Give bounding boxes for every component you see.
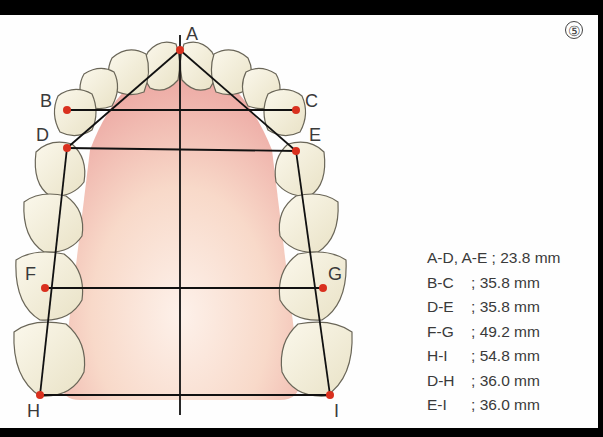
legend-key: H-I bbox=[427, 344, 471, 369]
point-B bbox=[63, 106, 71, 114]
legend-value: 35.8 mm bbox=[480, 295, 540, 320]
point-E bbox=[292, 147, 300, 155]
legend-key: D-H bbox=[427, 369, 471, 394]
legend-row: B-C; 35.8 mm bbox=[427, 271, 561, 296]
point-F bbox=[41, 284, 49, 292]
legend-sep: ; bbox=[471, 393, 480, 418]
label-I: I bbox=[334, 401, 339, 421]
dental-arch-diagram: A B C D E F G H I bbox=[0, 15, 420, 428]
label-F: F bbox=[25, 264, 36, 284]
legend-value: 36.0 mm bbox=[480, 393, 540, 418]
legend-key: F-G bbox=[427, 320, 471, 345]
legend-row: F-G; 49.2 mm bbox=[427, 320, 561, 345]
legend-row: H-I; 54.8 mm bbox=[427, 344, 561, 369]
legend-sep: ; bbox=[471, 369, 480, 394]
legend-value: 36.0 mm bbox=[480, 369, 540, 394]
legend-key: D-E bbox=[427, 295, 471, 320]
label-E: E bbox=[309, 125, 321, 145]
point-C bbox=[292, 106, 300, 114]
legend-value: 35.8 mm bbox=[480, 271, 540, 296]
legend-key: B-C bbox=[427, 271, 471, 296]
legend-value: 23.8 mm bbox=[500, 246, 560, 271]
legend-sep: ; bbox=[487, 246, 500, 271]
point-G bbox=[319, 284, 327, 292]
legend-sep: ; bbox=[471, 271, 480, 296]
label-H: H bbox=[27, 401, 40, 421]
point-D bbox=[63, 144, 71, 152]
legend-row: D-E; 35.8 mm bbox=[427, 295, 561, 320]
point-A bbox=[176, 46, 184, 54]
diagram-panel: A B C D E F G H I ⑤ A-D, A-E ; 23.8 mm B… bbox=[0, 15, 598, 428]
legend-key: A-D, A-E bbox=[427, 246, 487, 271]
legend-row: E-I; 36.0 mm bbox=[427, 393, 561, 418]
legend-value: 54.8 mm bbox=[480, 344, 540, 369]
label-A: A bbox=[186, 24, 198, 44]
legend-row: D-H; 36.0 mm bbox=[427, 369, 561, 394]
legend-row: A-D, A-E ; 23.8 mm bbox=[427, 246, 561, 271]
label-B: B bbox=[40, 91, 52, 111]
label-D: D bbox=[36, 125, 49, 145]
legend-key: E-I bbox=[427, 393, 471, 418]
legend-sep: ; bbox=[471, 320, 480, 345]
legend-sep: ; bbox=[471, 295, 480, 320]
point-I bbox=[326, 391, 334, 399]
figure-number-badge: ⑤ bbox=[565, 21, 583, 39]
label-C: C bbox=[305, 91, 318, 111]
point-H bbox=[36, 391, 44, 399]
legend-sep: ; bbox=[471, 344, 480, 369]
label-G: G bbox=[328, 264, 342, 284]
legend-value: 49.2 mm bbox=[480, 320, 540, 345]
measurements-legend: A-D, A-E ; 23.8 mm B-C; 35.8 mm D-E; 35.… bbox=[427, 246, 561, 418]
